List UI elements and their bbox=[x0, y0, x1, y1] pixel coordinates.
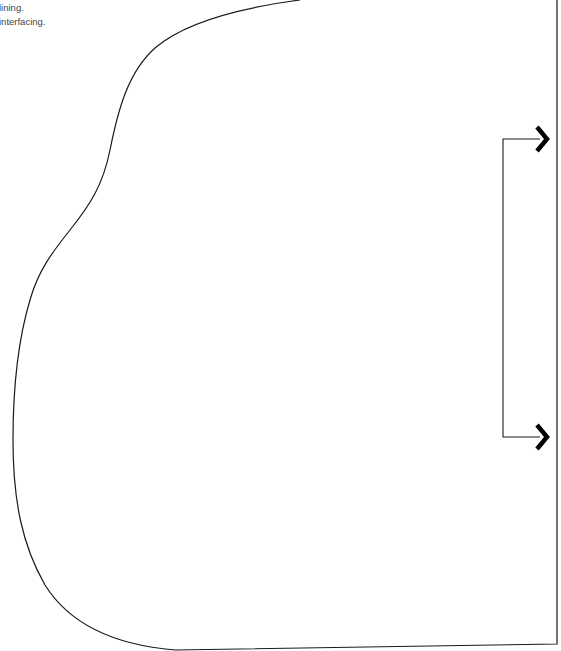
grainline-bracket bbox=[503, 139, 540, 437]
pattern-piece bbox=[0, 0, 561, 651]
grainline-bracket-arrows-icon bbox=[503, 127, 547, 449]
pattern-outline bbox=[13, 0, 557, 650]
